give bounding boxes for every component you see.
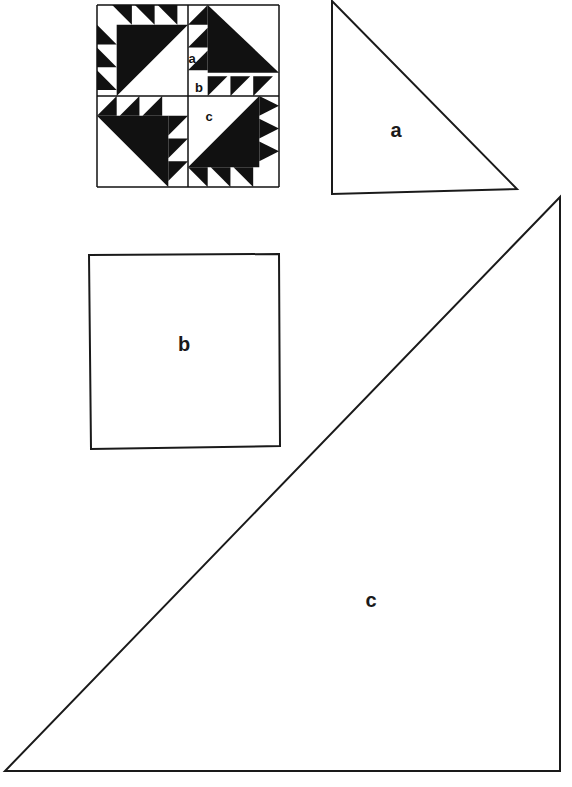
- large-triangle: [97, 116, 168, 187]
- small-triangle: [253, 76, 273, 96]
- small-triangle: [188, 167, 208, 187]
- small-triangle: [97, 47, 117, 67]
- block-label-c: c: [205, 109, 212, 124]
- piece-c-label: c: [365, 589, 376, 611]
- block-label-a: a: [188, 51, 196, 66]
- piece-c-template: c: [5, 197, 560, 771]
- small-triangle: [158, 5, 178, 25]
- piece-b-label: b: [178, 333, 190, 355]
- small-triangle: [168, 138, 188, 158]
- pattern-sheet: abc a b c: [0, 0, 572, 787]
- piece-a-template: a: [332, 1, 517, 194]
- small-triangle: [259, 96, 279, 116]
- small-triangle: [97, 96, 117, 116]
- small-triangle: [168, 116, 188, 136]
- small-triangle: [208, 76, 228, 96]
- piece-b-template: b: [89, 254, 280, 449]
- small-triangle: [135, 5, 155, 25]
- large-triangle: [188, 96, 259, 167]
- small-triangle: [230, 76, 250, 96]
- large-triangle: [208, 5, 279, 73]
- small-triangle: [259, 142, 279, 162]
- small-triangle: [188, 5, 208, 25]
- large-triangle: [117, 25, 188, 96]
- triangle-a-outline: [332, 1, 517, 194]
- piece-a-label: a: [390, 119, 402, 141]
- small-triangle: [97, 25, 117, 45]
- small-triangle: [97, 70, 117, 90]
- small-triangle: [120, 96, 140, 116]
- small-triangle: [143, 96, 163, 116]
- small-triangle: [211, 167, 231, 187]
- small-triangle: [168, 161, 188, 181]
- triangle-c-outline: [5, 197, 560, 771]
- small-triangle: [188, 28, 208, 48]
- small-triangle: [259, 119, 279, 139]
- block-label-b: b: [195, 80, 203, 95]
- small-triangle: [112, 5, 132, 25]
- small-triangle: [234, 167, 254, 187]
- quilt-block-preview: abc: [97, 5, 279, 187]
